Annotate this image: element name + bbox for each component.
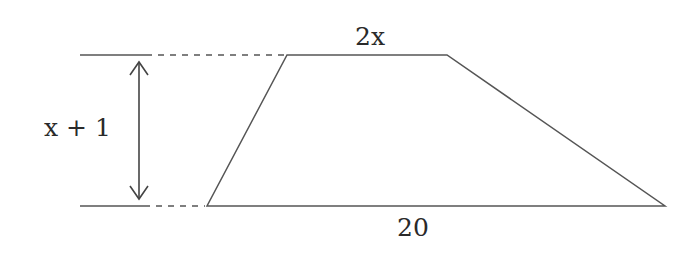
trapezoid-shape xyxy=(207,55,665,206)
height-label: x + 1 xyxy=(44,115,111,140)
bottom-base-label: 20 xyxy=(397,215,429,240)
height-double-arrow-icon xyxy=(130,62,148,199)
top-base-label: 2x xyxy=(355,24,385,49)
